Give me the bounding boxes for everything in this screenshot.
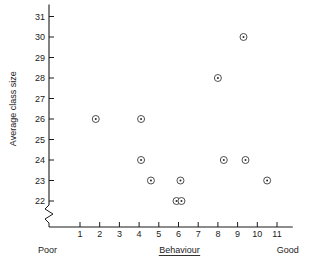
data-point-center xyxy=(179,180,181,182)
data-point-center xyxy=(95,118,97,120)
data-point-center xyxy=(223,159,225,161)
x-tick-label: 9 xyxy=(235,229,240,239)
x-tick-label: 5 xyxy=(156,229,161,239)
data-point-center xyxy=(140,118,142,120)
x-anchor-high-label: Good xyxy=(277,245,299,255)
y-tick-label: 23 xyxy=(35,176,45,186)
x-tick-label: 11 xyxy=(272,229,281,239)
x-anchor-low-label: Poor xyxy=(38,245,57,255)
data-point-center xyxy=(244,159,246,161)
chart-canvas: 22232425262728293031 1234567891011 Avera… xyxy=(0,0,317,265)
x-tick-label: 1 xyxy=(77,229,82,239)
data-point-center xyxy=(243,36,245,38)
data-point-center xyxy=(266,180,268,182)
y-axis: 22232425262728293031 xyxy=(35,5,54,228)
y-tick-label: 30 xyxy=(35,32,45,42)
y-tick-label: 28 xyxy=(35,73,45,83)
data-point-center xyxy=(176,200,178,202)
x-tick-label: 10 xyxy=(252,229,262,239)
x-tick-label: 6 xyxy=(176,229,181,239)
data-point-center xyxy=(140,159,142,161)
y-tick-label: 22 xyxy=(35,196,45,206)
data-points xyxy=(92,34,270,205)
data-point-center xyxy=(180,200,182,202)
y-tick-label: 31 xyxy=(35,12,45,22)
x-axis-title: Behaviour xyxy=(159,245,200,255)
x-tick-label: 3 xyxy=(117,229,122,239)
x-tick-label: 2 xyxy=(97,229,102,239)
y-axis-break-symbol xyxy=(45,205,53,227)
x-axis: 1234567891011 xyxy=(49,222,293,239)
data-point-center xyxy=(150,180,152,182)
x-tick-label: 8 xyxy=(215,229,220,239)
y-tick-label: 26 xyxy=(35,114,45,124)
y-tick-label: 25 xyxy=(35,135,45,145)
y-tick-label: 29 xyxy=(35,53,45,63)
y-tick-label: 24 xyxy=(35,155,45,165)
y-axis-title: Average class size xyxy=(8,71,18,146)
x-tick-label: 7 xyxy=(196,229,201,239)
y-tick-label: 27 xyxy=(35,94,45,104)
scatter-chart: 22232425262728293031 1234567891011 Avera… xyxy=(0,0,317,265)
data-point-center xyxy=(217,77,219,79)
x-tick-label: 4 xyxy=(137,229,142,239)
